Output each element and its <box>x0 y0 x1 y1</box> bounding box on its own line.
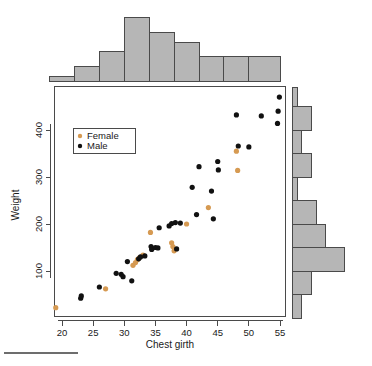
x-tick-label: 50 <box>244 327 255 338</box>
top-histogram-bar <box>249 57 280 82</box>
scatter-point-male <box>209 189 214 194</box>
x-tick-label: 30 <box>119 327 130 338</box>
top-histogram-bar <box>74 67 99 82</box>
scatter-point-male <box>236 143 241 148</box>
scatter-point-female <box>234 149 239 154</box>
scatter-point-male <box>216 167 221 172</box>
scatter-point-female <box>235 168 240 173</box>
right-histogram-bar <box>293 154 312 178</box>
scatter-point-female <box>103 286 108 291</box>
top-histogram-bar <box>124 18 149 82</box>
right-histogram-bar <box>293 248 345 272</box>
scatter-point-male <box>178 220 183 225</box>
scatter-point-male <box>234 112 239 117</box>
scatter-point-male <box>211 216 216 221</box>
y-tick-label: 300 <box>33 169 44 185</box>
footer-rule <box>4 352 78 354</box>
scatter-marginal-histogram-figure: 2025303540455055 Chest girth 10020030040… <box>0 0 372 366</box>
x-tick-label: 35 <box>150 327 161 338</box>
scatter-point-male <box>79 293 84 298</box>
scatter-point-male <box>138 254 143 259</box>
scatter-point-male <box>97 284 102 289</box>
right-histogram-bar <box>293 130 302 154</box>
top-histogram-bar <box>199 57 224 82</box>
scatter-point-male <box>246 144 251 149</box>
top-histogram-bar <box>174 42 199 81</box>
scatter-point-male <box>276 109 281 114</box>
scatter-point-male <box>173 220 178 225</box>
scatter-point-male <box>174 246 179 251</box>
scatter-point-male <box>259 113 264 118</box>
right-histogram-bar <box>293 271 312 295</box>
right-histogram-bar <box>293 201 317 225</box>
scatter-point-male <box>114 271 119 276</box>
y-tick-label: 200 <box>33 216 44 232</box>
y-tick-label: 400 <box>33 122 44 138</box>
scatter-point-male <box>129 278 134 283</box>
scatter-point-male <box>196 164 201 169</box>
scatter-point-female <box>148 230 153 235</box>
right-histogram-bar <box>293 88 298 107</box>
scatter-point-female <box>53 305 58 310</box>
scatter-point-male <box>142 253 147 258</box>
top-histogram-bar <box>224 57 249 82</box>
scatter-point-male <box>125 259 130 264</box>
scatter-point-male <box>215 159 220 164</box>
y-tick-label: 100 <box>33 263 44 279</box>
x-tick-label: 25 <box>88 327 99 338</box>
scatter-point-female <box>184 221 189 226</box>
x-tick-label: 45 <box>212 327 223 338</box>
scatter-point-male <box>120 274 125 279</box>
legend: FemaleMale <box>74 129 136 154</box>
scatter-point-male <box>155 245 160 250</box>
legend-label-male: Male <box>87 140 108 151</box>
top-histogram-bar <box>50 77 75 82</box>
x-axis-title: Chest girth <box>146 339 194 350</box>
x-tick-label: 40 <box>181 327 192 338</box>
scatter-point-male <box>190 185 195 190</box>
figure-container: 2025303540455055 Chest girth 10020030040… <box>0 0 372 366</box>
scatter-point-male <box>275 121 280 126</box>
scatter-point-male <box>194 212 199 217</box>
right-histogram-bar <box>293 224 326 248</box>
scatter-point-male <box>277 95 282 100</box>
female-dot-marker <box>78 134 82 138</box>
right-histogram-bar <box>293 107 312 131</box>
x-tick-label: 55 <box>275 327 286 338</box>
scatter-point-female <box>206 205 211 210</box>
right-histogram-bar <box>293 295 302 319</box>
male-dot-marker <box>78 144 82 148</box>
right-histogram-bar <box>293 177 298 201</box>
top-histogram-bar <box>149 32 174 81</box>
x-tick-label: 20 <box>57 327 68 338</box>
scatter-point-male <box>157 225 162 230</box>
y-axis-title: Weight <box>10 189 21 220</box>
top-histogram-bar <box>99 52 124 82</box>
